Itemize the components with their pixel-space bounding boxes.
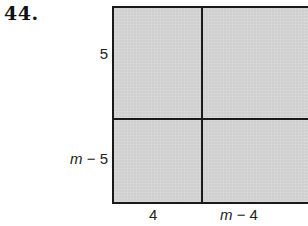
left-label-bottom-variable: m: [70, 150, 83, 167]
vertical-divider: [201, 8, 203, 202]
region-bottom-right: [203, 120, 308, 202]
left-label-top-text: 5: [100, 45, 108, 62]
problem-number: 44.: [4, 2, 39, 24]
left-label-bottom-rest: − 5: [83, 150, 108, 167]
bottom-label-left: 4: [149, 206, 157, 224]
bottom-label-right-variable: m: [220, 206, 233, 223]
bottom-label-right: m − 4: [220, 206, 258, 224]
left-label-top: 5: [100, 45, 108, 63]
horizontal-divider: [114, 118, 308, 120]
bottom-label-right-rest: − 4: [233, 206, 258, 223]
region-top-right: [203, 8, 308, 118]
region-bottom-left: [114, 120, 201, 202]
left-label-bottom: m − 5: [70, 150, 108, 168]
area-model-rectangle: [112, 6, 308, 204]
bottom-label-left-text: 4: [149, 206, 157, 223]
region-top-left: [114, 8, 201, 118]
